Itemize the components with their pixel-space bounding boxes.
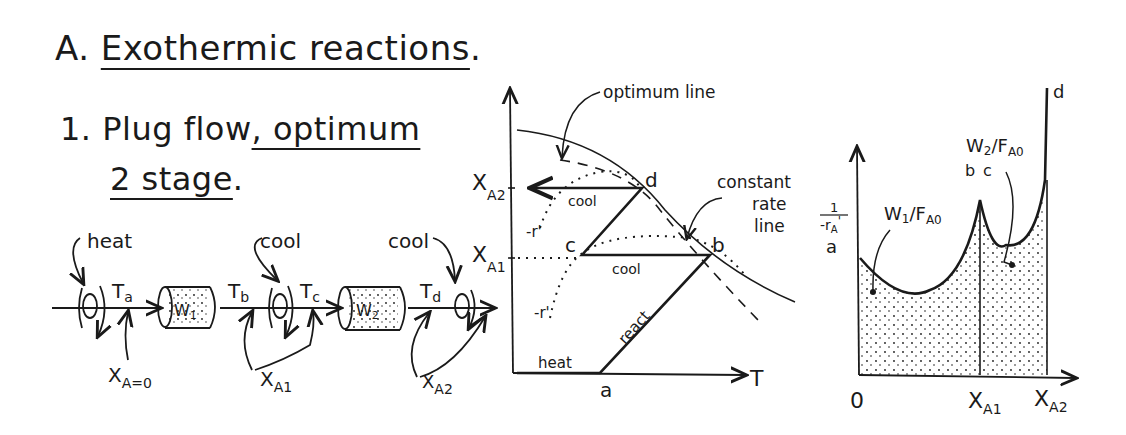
point-b: b xyxy=(712,233,725,257)
rate-upper-label: -r' xyxy=(526,223,542,241)
point-c: c xyxy=(565,233,576,257)
item-heading-line2: 2 stage. xyxy=(110,160,244,198)
item-title-line2: 2 stage xyxy=(110,160,233,198)
react-label: react xyxy=(615,307,654,348)
item-title-b: , optimum xyxy=(252,110,421,148)
y-axis xyxy=(857,148,859,375)
heat-label: heat xyxy=(87,229,132,253)
item-number: 1. xyxy=(60,110,92,148)
cool-lower-label: cool xyxy=(612,261,641,277)
heat-label: heat xyxy=(538,354,572,372)
x-axis xyxy=(859,375,1075,378)
cool-label-1: cool xyxy=(260,229,301,253)
y-axis xyxy=(510,90,513,373)
y-axis-label-numerator: 1 xyxy=(830,200,838,215)
cool-upper-label: cool xyxy=(568,193,597,209)
constant-rate-label-3: line xyxy=(754,216,785,236)
temp-c-label: Tc xyxy=(299,279,320,305)
rate-lower-label: -r' xyxy=(534,304,550,322)
point-a: a xyxy=(826,236,837,257)
item-title-a: Plug flow xyxy=(102,110,251,148)
section-title: Exothermic reactions xyxy=(101,28,470,68)
x-tick-0: 0 xyxy=(850,388,864,413)
point-d: d xyxy=(1053,81,1064,102)
conversion-1-label: XA1 xyxy=(260,367,292,395)
x-tick-xa1: XA1 xyxy=(968,388,1002,417)
conversion-2-label: XA2 xyxy=(422,371,453,397)
temp-b-label: Tb xyxy=(227,279,249,305)
section-prefix: A. xyxy=(55,28,89,68)
temp-a-label: Ta xyxy=(111,279,133,305)
optimum-line-label: optimum line xyxy=(603,82,716,102)
constant-rate-label-1: constant xyxy=(717,172,791,192)
point-d: d xyxy=(645,168,658,192)
y-axis-label-denominator: -rA' xyxy=(820,214,841,235)
conversion-0-label: XA=0 xyxy=(108,363,152,391)
inverse-rate-diagram: a b c d 1 -rA' W1/FA0 W2/FA0 0 XA1 XA2 xyxy=(820,70,1126,435)
point-a: a xyxy=(600,378,612,402)
point-c: c xyxy=(983,161,992,180)
cool-label-2: cool xyxy=(388,229,429,253)
temp-d-label: Td xyxy=(419,279,441,305)
t-axis-label: T xyxy=(749,366,764,391)
constant-rate-label-2: rate xyxy=(752,194,787,214)
item-heading: 1. Plug flow, optimum xyxy=(60,110,420,148)
area-2-label: W2/FA0 xyxy=(966,135,1024,159)
point-b: b xyxy=(965,161,975,180)
xa1-axis-label: XA1 xyxy=(472,242,506,275)
conversion-temperature-diagram: XA2 XA1 T a b c d optimum line constant … xyxy=(460,60,820,435)
section-heading: A. Exothermic reactions. xyxy=(55,28,481,68)
xa2-axis-label: XA2 xyxy=(472,170,506,203)
area-1-label: W1/FA0 xyxy=(884,203,942,227)
x-tick-xa2: XA2 xyxy=(1034,386,1068,415)
item-title-line2-suffix: . xyxy=(233,160,244,198)
flow-diagram: heat cool cool Ta Tb Tc Td W1 W2 XA=0 XA… xyxy=(0,220,500,435)
